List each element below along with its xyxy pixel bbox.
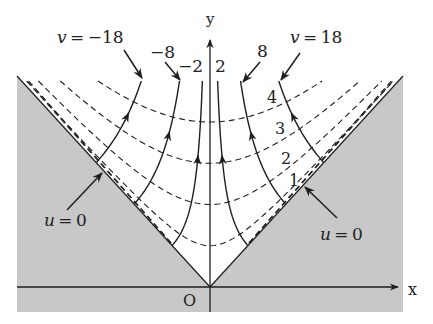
u-curve-label: 1 <box>289 171 299 190</box>
flow-arrow-icon <box>168 132 169 136</box>
pointer-arrow-icon <box>281 53 300 80</box>
v-curve-label: 8 <box>257 41 268 61</box>
v-curve-label: v = 18 <box>290 27 342 47</box>
v-curve-label: v = −18 <box>57 27 124 47</box>
flow-line-v--18 <box>97 81 142 162</box>
boundary-u0-label: u = 0 <box>320 224 363 244</box>
light-cone-diagram: 1234 v = −18−8−228v = 18u = 0u = 0 x y O <box>0 0 433 324</box>
y-axis-label: y <box>205 10 215 28</box>
pointer-arrow-icon <box>243 62 260 82</box>
flow-line-v--2 <box>172 81 202 245</box>
u-curve-label: 3 <box>275 119 285 138</box>
shade-left <box>17 76 210 312</box>
diagram-canvas: 1234 v = −18−8−228v = 18u = 0u = 0 x y O <box>0 0 433 324</box>
v-curve-label: −2 <box>178 56 203 76</box>
flow-arrow-icon <box>251 132 252 136</box>
flow-arrow-icon <box>291 113 293 117</box>
pointer-arrow-icon <box>124 50 142 78</box>
v-curve-label: −8 <box>150 42 175 62</box>
u-curve-label: 2 <box>281 149 291 168</box>
shade-right <box>210 76 403 312</box>
origin-label: O <box>183 291 196 310</box>
boundary-u0-label: u = 0 <box>44 210 87 230</box>
u-curve-label: 4 <box>267 88 277 107</box>
v-curve-label: 2 <box>215 56 226 76</box>
flow-arrow-icon <box>126 113 128 117</box>
x-axis-label: x <box>408 280 417 299</box>
flow-line-v-2 <box>218 81 248 245</box>
